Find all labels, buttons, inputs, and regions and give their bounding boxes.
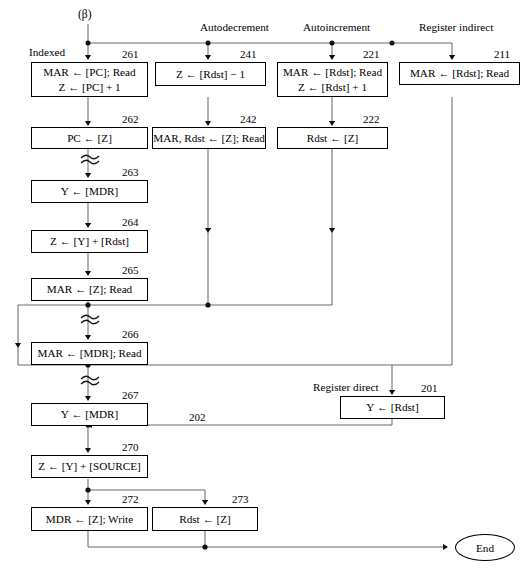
tag-266: 266 [122,328,139,340]
node-273-line-1: Rdst ← [Z] [179,512,231,527]
node-263[interactable]: Y ← [MDR] [31,180,148,203]
node-265[interactable]: MAR ← [Z]; Read [31,278,148,301]
node-211-line-1: MAR ← [Rdst]; Read [410,66,509,81]
node-242[interactable]: MAR, Rdst ← [Z]; Read [152,127,266,149]
tag-211: 211 [494,48,510,60]
tag-222: 222 [363,113,380,125]
node-262-line-1: PC ← [Z] [67,131,112,146]
tag-261: 261 [122,48,139,60]
mode-label-indexed: Indexed [29,46,65,58]
node-264-line-1: Z ← [Y] + [Rdst] [50,234,129,249]
node-222-line-1: Rdst ← [Z] [307,131,359,146]
node-267[interactable]: Y ← [MDR] [31,403,148,426]
end-node[interactable]: End [455,534,515,561]
tag-201: 201 [421,382,438,394]
node-201-line-1: Y ← [Rdst] [366,400,418,415]
node-261-line-1: MAR ← [PC]; Read [43,65,135,80]
tag-241: 241 [240,48,257,60]
tag-270: 270 [122,441,139,453]
node-267-line-1: Y ← [MDR] [61,407,118,422]
tag-262: 262 [122,113,139,125]
tag-265: 265 [122,264,139,276]
node-211[interactable]: MAR ← [Rdst]; Read [399,62,520,85]
node-262[interactable]: PC ← [Z] [31,127,148,149]
end-node-label: End [476,542,494,554]
node-263-line-1: Y ← [MDR] [61,184,118,199]
beta-entry-label: (β) [78,8,92,20]
node-272[interactable]: MDR ← [Z]; Write [31,507,148,531]
node-270[interactable]: Z ← [Y] + [SOURCE] [31,455,148,478]
node-221-line-1: MAR ← [Rdst]; Read [283,65,382,80]
tag-273: 273 [232,493,249,505]
node-265-line-1: MAR ← [Z]; Read [47,282,132,297]
node-266-line-1: MAR ← [MDR]; Read [37,346,141,361]
tag-272: 272 [122,493,139,505]
tag-267: 267 [122,389,139,401]
mode-label-register-direct: Register direct [313,381,379,393]
node-261[interactable]: MAR ← [PC]; Read Z ← [PC] + 1 [31,62,148,97]
node-264[interactable]: Z ← [Y] + [Rdst] [31,230,148,253]
node-261-line-2: Z ← [PC] + 1 [58,80,120,95]
node-241[interactable]: Z ← [Rdst] − 1 [155,62,266,86]
node-266[interactable]: MAR ← [MDR]; Read [31,342,148,365]
node-222[interactable]: Rdst ← [Z] [277,127,388,149]
tag-221: 221 [363,48,380,60]
mode-label-register-indirect: Register indirect [419,21,493,33]
node-241-line-1: Z ← [Rdst] − 1 [176,67,245,82]
tag-263: 263 [122,166,139,178]
node-272-line-1: MDR ← [Z]; Write [46,512,133,527]
tag-242: 242 [240,113,257,125]
node-221-line-2: Z ← [Rdst] + 1 [298,80,367,95]
node-242-line-1: MAR, Rdst ← [Z]; Read [153,131,265,146]
node-270-line-1: Z ← [Y] + [SOURCE] [38,459,141,474]
mode-label-autodecrement: Autodecrement [200,21,269,33]
mode-label-autoincrement: Autoincrement [303,21,370,33]
flowchart-canvas: (β) Indexed Autodecrement Autoincrement … [0,0,525,577]
node-201[interactable]: Y ← [Rdst] [340,396,445,419]
node-221[interactable]: MAR ← [Rdst]; Read Z ← [Rdst] + 1 [277,62,388,97]
node-273[interactable]: Rdst ← [Z] [152,507,258,531]
tag-264: 264 [122,216,139,228]
tag-202: 202 [189,411,206,423]
